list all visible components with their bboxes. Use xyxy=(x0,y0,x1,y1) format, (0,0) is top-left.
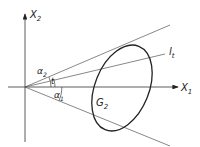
angle-t-arc xyxy=(54,80,55,87)
g2-label: G2 xyxy=(96,97,109,111)
region-g2-ellipse xyxy=(80,36,164,140)
x1-axis-label: X1 xyxy=(180,82,192,96)
lt-label: lt xyxy=(169,46,175,60)
alpha2-label: α2 xyxy=(37,66,47,78)
alpha1-label: α1 xyxy=(54,90,64,102)
x2-axis-label: X2 xyxy=(29,9,42,23)
diagram-canvas: X2 X1 lt G2 α2 α1 t xyxy=(0,0,200,147)
